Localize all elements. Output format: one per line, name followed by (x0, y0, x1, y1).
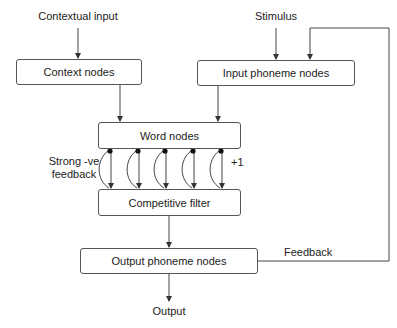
contextual-input-label: Contextual input (38, 10, 118, 23)
context-nodes-box: Context nodes (16, 59, 142, 85)
output-phoneme-nodes-label: Output phoneme nodes (112, 255, 227, 267)
stimulus-label: Stimulus (255, 10, 297, 23)
word-to-filter-connection-1 (99, 151, 111, 188)
input-phoneme-nodes-label: Input phoneme nodes (223, 67, 329, 79)
output-label: Output (152, 305, 185, 318)
competitive-filter-label: Competitive filter (129, 197, 211, 209)
strong-negative-feedback-label-line2: feedback (52, 168, 97, 181)
plus-one-label: +1 (231, 156, 244, 169)
inhibitory-dot-5 (218, 148, 223, 153)
word-nodes-label: Word nodes (140, 130, 199, 142)
word-to-filter-connection-4 (182, 151, 194, 188)
diagram-canvas: Contextual input Stimulus Context nodes … (0, 0, 397, 328)
output-phoneme-nodes-box: Output phoneme nodes (80, 248, 258, 274)
inhibitory-dot-3 (162, 148, 167, 153)
feedback-label: Feedback (284, 246, 332, 259)
inhibitory-dot-4 (190, 148, 195, 153)
word-to-filter-connection-2 (127, 151, 139, 188)
inhibitory-dot-1 (107, 148, 112, 153)
competitive-filter-box: Competitive filter (98, 189, 241, 216)
word-to-filter-connection-3 (154, 151, 166, 188)
context-nodes-label: Context nodes (44, 66, 115, 78)
strong-negative-feedback-label-line1: Strong -ve (49, 155, 100, 168)
input-phoneme-nodes-box: Input phoneme nodes (197, 60, 355, 86)
word-nodes-box: Word nodes (98, 122, 241, 149)
inhibitory-dot-2 (135, 148, 140, 153)
word-to-filter-connection-5 (210, 151, 222, 188)
